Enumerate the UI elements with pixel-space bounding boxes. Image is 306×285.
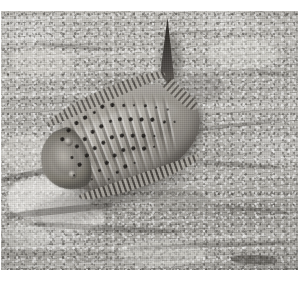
rock-chipped-face <box>209 39 279 69</box>
photo-frame <box>0 0 306 285</box>
caption-text <box>1 272 298 284</box>
rock-chipped-face <box>11 47 73 75</box>
photograph-plate <box>1 11 298 270</box>
